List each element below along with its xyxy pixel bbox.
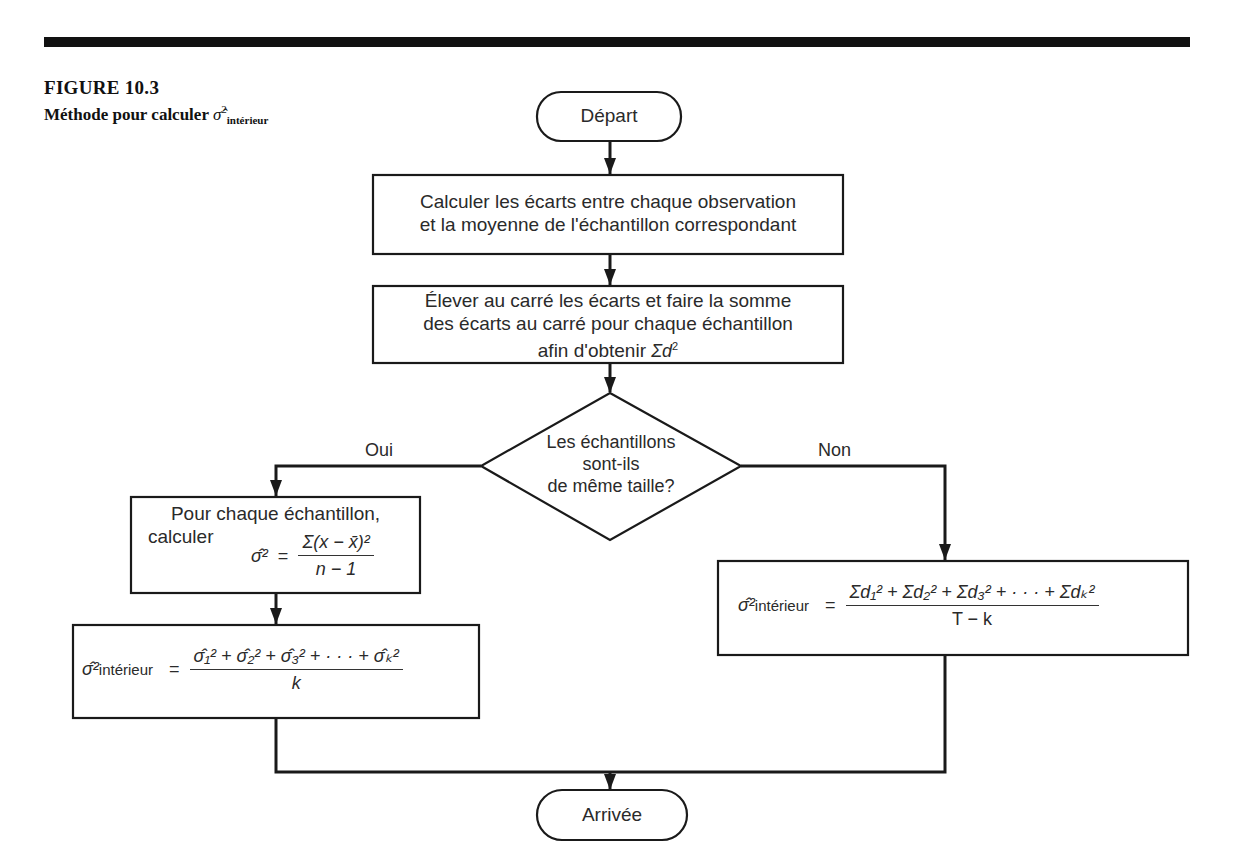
pooled-numerator: σ̂₁² + σ̂₂² + σ̂₃² + · · · + σ̂ₖ² [190, 645, 403, 670]
step2-line3: afin d'obtenir Σd2 [373, 335, 843, 363]
sum-d-squared: Σd2 [651, 341, 678, 361]
variance-equals: = [278, 546, 289, 567]
end-terminal: Arrivée [537, 803, 687, 826]
sum-d-math: Σd [651, 341, 672, 361]
decision-box: Les échantillons sont-ils de même taille… [531, 431, 691, 497]
start-terminal: Départ [537, 104, 681, 127]
yes-step1-box: Pour chaque échantillon, calculer σ̂² = … [131, 502, 420, 525]
variance-lhs: σ̂² [251, 546, 268, 567]
unequal-numerator: Σd₁² + Σd₂² + Σd₃² + · · · + Σdₖ² [846, 581, 1099, 606]
pooled-equals: = [169, 659, 180, 680]
decision-line3: de même taille? [531, 475, 691, 497]
step2-box: Élever au carré les écarts et faire la s… [373, 289, 843, 363]
step2-line3-text: afin d'obtenir [538, 340, 646, 361]
pooled-variance-equal-formula: σ̂²intérieur = σ̂₁² + σ̂₂² + σ̂₃² + · · … [82, 645, 403, 694]
pooled-variance-unequal-formula: σ̂²intérieur = Σd₁² + Σd₂² + Σd₃² + · · … [738, 581, 1099, 630]
branch-no-label: Non [818, 440, 851, 461]
unequal-denominator: T − k [952, 606, 992, 630]
pooled-lhs-symbol: σ̂² [82, 659, 99, 679]
variance-fraction: Σ(x − x̄)² n − 1 [298, 532, 373, 580]
variance-denominator: n − 1 [316, 556, 357, 580]
unequal-lhs-symbol: σ̂² [738, 595, 755, 615]
pooled-lhs: σ̂²intérieur [82, 659, 153, 680]
step2-line2: des écarts au carré pour chaque échantil… [373, 312, 843, 335]
unequal-fraction: Σd₁² + Σd₂² + Σd₃² + · · · + Σdₖ² T − k [846, 581, 1099, 630]
start-label: Départ [580, 105, 637, 126]
variance-formula: σ̂² = Σ(x − x̄)² n − 1 [251, 532, 374, 580]
step1-line1: Calculer les écarts entre chaque observa… [373, 190, 843, 213]
end-label: Arrivée [582, 804, 642, 825]
unequal-lhs-sub: intérieur [755, 597, 809, 614]
unequal-lhs: σ̂²intérieur [738, 595, 809, 616]
yes-step1-line2: calculer [148, 525, 213, 548]
yes-step1-line1: Pour chaque échantillon, [131, 502, 420, 525]
pooled-fraction: σ̂₁² + σ̂₂² + σ̂₃² + · · · + σ̂ₖ² k [190, 645, 403, 694]
pooled-denominator: k [292, 670, 301, 694]
step1-line2: et la moyenne de l'échantillon correspon… [373, 213, 843, 236]
step2-line1: Élever au carré les écarts et faire la s… [373, 289, 843, 312]
decision-line1: Les échantillons [531, 431, 691, 453]
variance-numerator: Σ(x − x̄)² [298, 532, 373, 556]
pooled-lhs-sub: intérieur [99, 661, 153, 678]
sum-d-sup: 2 [672, 340, 678, 352]
decision-line2: sont-ils [531, 453, 691, 475]
step1-box: Calculer les écarts entre chaque observa… [373, 190, 843, 236]
branch-yes-label: Oui [365, 440, 393, 461]
unequal-equals: = [825, 595, 836, 616]
